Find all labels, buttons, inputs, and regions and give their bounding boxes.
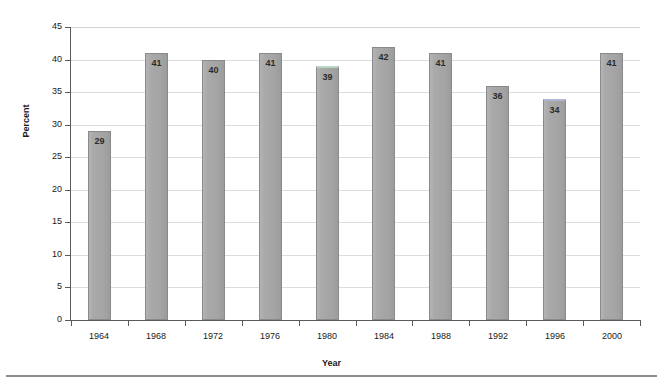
- x-axis-tick: [128, 320, 129, 326]
- y-axis-tick: [65, 92, 71, 93]
- y-axis-tick-label: 0: [38, 315, 62, 324]
- bar-2000: 41: [600, 53, 623, 320]
- bottom-rule-divider: [6, 375, 657, 377]
- x-axis-tick-label: 2000: [582, 331, 642, 341]
- bar-value-label: 41: [260, 58, 281, 68]
- bar-1972: 40: [202, 60, 225, 320]
- y-axis-tick-label: 35: [38, 87, 62, 96]
- bar-1988: 41: [429, 53, 452, 320]
- y-axis-tick-label: 30: [38, 120, 62, 129]
- x-axis-tick-label: 1976: [240, 331, 300, 341]
- y-axis-tick-label: 5: [38, 282, 62, 291]
- y-axis-title: Percent: [21, 81, 31, 161]
- bar-value-label: 42: [373, 52, 394, 62]
- bar-1980: 39: [316, 66, 339, 320]
- gridline: [71, 27, 640, 28]
- bar-value-label: 40: [203, 65, 224, 75]
- y-axis-tick: [65, 125, 71, 126]
- x-axis-tick: [185, 320, 186, 326]
- y-axis-tick-label: 10: [38, 250, 62, 259]
- bar-chart-figure: 051015202530354045 196419681972197619801…: [0, 0, 663, 384]
- x-axis-tick: [412, 320, 413, 326]
- x-axis-tick: [526, 320, 527, 326]
- x-axis-tick-label: 1968: [126, 331, 186, 341]
- bar-value-label: 39: [317, 72, 338, 82]
- x-axis-tick-label: 1988: [411, 331, 471, 341]
- bar-value-label: 29: [89, 136, 110, 146]
- bar-1976: 41: [259, 53, 282, 320]
- y-axis-tick-label: 20: [38, 185, 62, 194]
- x-axis-tick: [299, 320, 300, 326]
- bar-value-label: 41: [601, 58, 622, 68]
- bar-value-label: 34: [544, 105, 565, 115]
- x-axis-tick: [583, 320, 584, 326]
- y-axis-line: [70, 27, 71, 321]
- y-axis-tick: [65, 27, 71, 28]
- bar-value-label: 41: [430, 58, 451, 68]
- y-axis-tick-label: 45: [38, 22, 62, 31]
- x-axis-tick: [640, 320, 641, 326]
- y-axis-tick: [65, 60, 71, 61]
- bar-1964: 29: [88, 131, 111, 320]
- x-axis-tick-label: 1980: [297, 331, 357, 341]
- x-axis-tick-label: 1984: [354, 331, 414, 341]
- x-axis-tick-label: 1996: [525, 331, 585, 341]
- bar-1996: 34: [543, 99, 566, 320]
- y-axis-tick-label: 40: [38, 55, 62, 64]
- y-axis-tick: [65, 255, 71, 256]
- x-axis-tick-label: 1972: [183, 331, 243, 341]
- y-axis-tick: [65, 157, 71, 158]
- bar-value-label: 36: [487, 91, 508, 101]
- x-axis-tick-label: 1992: [468, 331, 528, 341]
- bar-1992: 36: [486, 86, 509, 320]
- y-axis-tick-label: 25: [38, 152, 62, 161]
- x-axis-tick: [242, 320, 243, 326]
- x-axis-tick: [71, 320, 72, 326]
- bar-value-label: 41: [146, 58, 167, 68]
- x-axis-tick: [469, 320, 470, 326]
- y-axis-tick: [65, 222, 71, 223]
- bar-1968: 41: [145, 53, 168, 320]
- x-axis-title: Year: [0, 358, 663, 368]
- y-axis-tick: [65, 287, 71, 288]
- x-axis-tick: [356, 320, 357, 326]
- y-axis-tick: [65, 190, 71, 191]
- x-axis-tick-label: 1964: [69, 331, 129, 341]
- y-axis-tick-label: 15: [38, 217, 62, 226]
- bar-1984: 42: [372, 47, 395, 320]
